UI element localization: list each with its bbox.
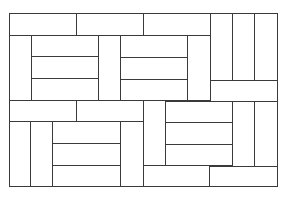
tile-vertical [31, 122, 53, 187]
tile-horizontal [211, 81, 278, 102]
tile-horizontal [32, 79, 99, 101]
tile-vertical [99, 36, 121, 101]
tile-vertical [144, 101, 166, 166]
tile-vertical [121, 122, 144, 187]
tile-horizontal [121, 80, 188, 101]
tile-horizontal [32, 57, 99, 79]
tile-vertical [10, 36, 32, 101]
tile-horizontal [166, 102, 233, 123]
tile-vertical [188, 36, 211, 101]
tile-horizontal [121, 36, 188, 58]
tile-vertical [233, 102, 255, 167]
tile-horizontal [144, 14, 211, 36]
tile-horizontal [53, 122, 121, 144]
tile-horizontal [10, 14, 77, 36]
tile-horizontal [77, 14, 144, 36]
tile-horizontal [121, 58, 188, 80]
tile-vertical [10, 122, 31, 187]
tile-horizontal [32, 36, 99, 57]
tile-vertical [255, 102, 278, 167]
tile-vertical [255, 14, 278, 81]
tile-vertical [233, 14, 255, 81]
tile-group [10, 14, 278, 187]
tile-horizontal [53, 144, 121, 166]
tile-horizontal [166, 145, 233, 166]
tile-horizontal [210, 167, 278, 187]
parquet-pattern-diagram [0, 0, 284, 197]
tile-vertical [211, 14, 233, 81]
tile-horizontal [77, 101, 144, 122]
tile-horizontal [53, 166, 121, 187]
tile-horizontal [166, 123, 233, 145]
tile-horizontal [144, 166, 210, 187]
tile-horizontal [10, 101, 77, 122]
